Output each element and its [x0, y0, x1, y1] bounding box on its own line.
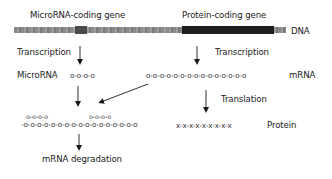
arrow-mrna-to-duplex	[101, 84, 148, 102]
arrows-layer	[0, 0, 332, 179]
